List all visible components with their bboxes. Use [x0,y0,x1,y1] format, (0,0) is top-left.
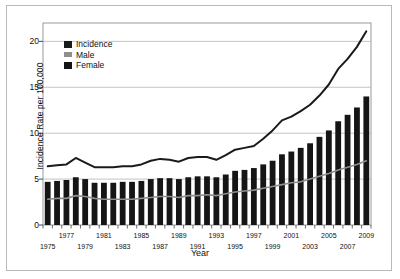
legend-item-label: Incidence [76,39,112,50]
y-tick-label: 0 [13,221,39,230]
y-axis-title: Incidence Rate per 100,000 [35,36,45,196]
legend-item: Incidence [64,39,112,50]
legend-item: Female [64,60,112,71]
legend-swatch-icon [64,62,72,69]
x-tick-label: 1983 [110,243,136,250]
x-tick-label: 1981 [91,232,117,239]
legend-item: Male [64,50,112,61]
x-tick-label: 1999 [260,243,286,250]
x-tick-label: 2009 [353,232,379,239]
x-tick-label: 2005 [316,232,342,239]
x-tick-label: 1995 [222,243,248,250]
x-tick-label: 2007 [335,243,361,250]
x-tick-label: 1989 [166,232,192,239]
x-tick-label: 1977 [53,232,79,239]
x-tick-label: 1987 [147,243,173,250]
legend-swatch-icon [64,52,72,57]
x-tick-label: 1979 [72,243,98,250]
chart-legend: IncidenceMaleFemale [64,39,112,71]
legend-swatch-icon [64,41,72,48]
x-tick-label: 1975 [35,243,61,250]
legend-item-label: Female [76,60,104,71]
legend-item-label: Male [76,50,94,61]
x-tick-label: 1991 [185,243,211,250]
x-tick-label: 1993 [203,232,229,239]
x-tick-label: 1985 [128,232,154,239]
chart-figure: 05101520 Incidence Rate per 100,000 Year… [6,5,392,271]
x-tick-label: 1997 [241,232,267,239]
x-tick-label: 2003 [297,243,323,250]
x-tick-label: 2001 [278,232,304,239]
